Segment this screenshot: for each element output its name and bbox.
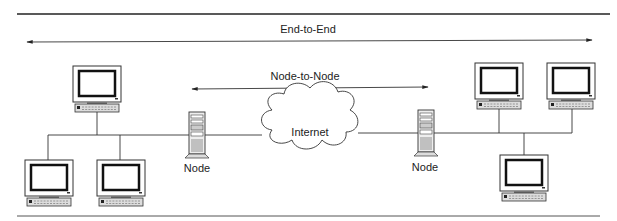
end-to-end-label: End-to-End bbox=[280, 23, 336, 35]
end-to-end-arrow bbox=[27, 40, 592, 42]
internet-cloud: Internet bbox=[262, 82, 358, 149]
computer-icon bbox=[475, 63, 523, 109]
internet-label: Internet bbox=[291, 126, 328, 138]
left-lan-wiring bbox=[48, 112, 262, 160]
computer-icon bbox=[73, 66, 121, 112]
right-node-label: Node bbox=[412, 161, 438, 173]
computer-icon bbox=[25, 160, 73, 206]
computer-icon bbox=[500, 155, 548, 201]
right-lan-wiring bbox=[358, 108, 572, 155]
right-node: Node bbox=[412, 110, 438, 173]
network-diagram: End-to-End Node-to-Node Internet Node No… bbox=[0, 0, 617, 221]
left-node-label: Node bbox=[184, 162, 210, 174]
left-node: Node bbox=[184, 112, 210, 174]
computer-icon bbox=[547, 63, 595, 109]
server-icon bbox=[414, 110, 438, 156]
node-to-node-label: Node-to-Node bbox=[270, 70, 339, 82]
server-icon bbox=[185, 112, 209, 158]
computer-icon bbox=[97, 160, 145, 206]
